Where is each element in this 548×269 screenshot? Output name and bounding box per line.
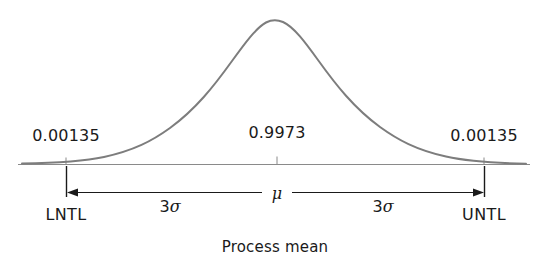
right-three-sigma-number: 3 bbox=[372, 197, 382, 216]
right-sigma-symbol: σ bbox=[383, 197, 394, 216]
center-probability-label: 0.9973 bbox=[248, 125, 305, 141]
lower-natural-tolerance-limit-label: LNTL bbox=[45, 207, 86, 223]
left-three-sigma-label: 3σ bbox=[159, 199, 180, 215]
left-span-arrow bbox=[67, 189, 262, 197]
right-span-arrow bbox=[292, 189, 484, 197]
right-three-sigma-label: 3σ bbox=[372, 199, 393, 215]
process-mean-symbol-label: μ bbox=[272, 186, 282, 202]
process-capability-figure: 0.00135 0.9973 0.00135 LNTL UNTL μ 3σ 3σ… bbox=[0, 0, 548, 269]
left-sigma-symbol: σ bbox=[170, 197, 181, 216]
axis-title-process-mean: Process mean bbox=[222, 240, 329, 255]
left-tail-probability-label: 0.00135 bbox=[32, 128, 100, 144]
upper-natural-tolerance-limit-label: UNTL bbox=[462, 207, 506, 223]
left-three-sigma-number: 3 bbox=[159, 197, 169, 216]
right-tail-probability-label: 0.00135 bbox=[450, 128, 518, 144]
